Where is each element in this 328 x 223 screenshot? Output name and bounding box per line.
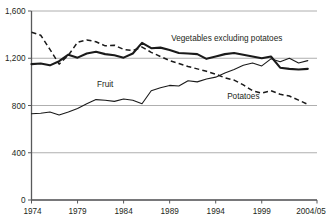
- line-chart: 04008001,2001,600 1974197919841989199419…: [0, 0, 328, 223]
- chart-container: 04008001,2001,600 1974197919841989199419…: [0, 0, 328, 223]
- series-label-fruit: Fruit: [97, 80, 114, 89]
- series-line-vegetables-excluding-potatoes: [32, 43, 308, 70]
- y-axis-tick-labels: 04008001,2001,600: [5, 7, 26, 205]
- series-label-potatoes: Potatoes: [227, 92, 259, 101]
- y-axis-label-400: 400: [12, 149, 26, 158]
- series-line-fruit: [32, 58, 308, 115]
- x-axis-label-1984: 1984: [114, 207, 133, 216]
- x-axis-label-1994: 1994: [207, 207, 226, 216]
- x-axis-label-1989: 1989: [161, 207, 180, 216]
- x-axis-label-2004: 2004/05: [296, 207, 326, 216]
- y-axis-label-800: 800: [12, 102, 26, 111]
- data-series: [32, 32, 308, 115]
- x-axis-label-1999: 1999: [253, 207, 272, 216]
- series-label-vegetables-excluding-potatoes: Vegetables excluding potatoes: [171, 34, 282, 43]
- y-axis-label-1600: 1,600: [5, 7, 26, 16]
- x-axis-label-1974: 1974: [23, 207, 42, 216]
- y-axis-label-0: 0: [21, 196, 26, 205]
- x-axis-tick-labels: 1974197919841989199419992004/05: [23, 207, 326, 216]
- y-axis-label-1200: 1,200: [5, 54, 26, 63]
- x-axis-label-1979: 1979: [68, 207, 87, 216]
